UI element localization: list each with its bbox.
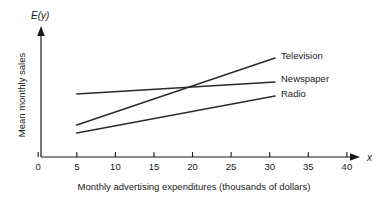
- x-axis-tick-labels: 0 5 10 15 20 25 30 35 40: [36, 161, 353, 172]
- x-tick-label: 5: [74, 161, 79, 172]
- x-tick-label: 10: [110, 161, 121, 172]
- chart-container: 0 5 10 15 20 25 30 35 40 Television News…: [0, 0, 391, 202]
- series-label-radio: Radio: [281, 88, 306, 99]
- x-tick-label: 25: [226, 161, 237, 172]
- x-axis-ticks: [38, 152, 347, 157]
- x-tick-label: 15: [149, 161, 160, 172]
- y-axis-arrow-icon: [37, 26, 45, 36]
- x-tick-label: 40: [342, 161, 353, 172]
- x-axis-title: Monthly advertising expenditures (thousa…: [78, 181, 311, 192]
- series-label-newspaper: Newspaper: [281, 73, 329, 84]
- x-tick-label: 0: [36, 161, 41, 172]
- y-axis-variable-label: E(y): [31, 10, 49, 21]
- line-chart-plot: 0 5 10 15 20 25 30 35 40 Television News…: [0, 0, 391, 202]
- x-axis-arrow-icon: [350, 153, 360, 161]
- x-tick-label: 20: [187, 161, 198, 172]
- x-tick-label: 35: [303, 161, 314, 172]
- series-label-television: Television: [281, 50, 323, 61]
- series-lines: [77, 58, 275, 133]
- x-tick-label: 30: [264, 161, 275, 172]
- y-axis-title: Mean monthly sales: [16, 53, 27, 138]
- x-axis-variable-label: x: [366, 152, 373, 163]
